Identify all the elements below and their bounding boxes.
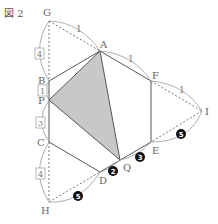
- svg-text:2: 2: [111, 168, 116, 176]
- svg-text:3: 3: [138, 154, 143, 162]
- shaded-triangle-APQ: [49, 51, 120, 160]
- boxed-label-GB: 4: [35, 48, 44, 59]
- boxed-label-BP: 1: [38, 85, 47, 96]
- vertex-label-E: E: [152, 145, 159, 156]
- vertex-label-C: C: [37, 137, 45, 148]
- svg-text:3: 3: [38, 119, 43, 128]
- svg-text:5: 5: [76, 193, 81, 201]
- badge-HD: 5: [73, 191, 83, 201]
- vertex-label-D: D: [99, 175, 107, 186]
- badge-EI: 5: [176, 129, 186, 139]
- length-label-GA: 1: [76, 24, 82, 34]
- vertex-label-F: F: [152, 70, 159, 81]
- vertex-label-Q: Q: [123, 162, 131, 173]
- vertex-label-P: P: [38, 95, 45, 106]
- svg-text:1: 1: [40, 87, 45, 96]
- svg-text:4: 4: [37, 50, 42, 59]
- length-label-AF: 1: [128, 54, 134, 64]
- geometry-figure: 図 2 G A F I E Q D H C P B 1 1 1: [0, 0, 218, 224]
- boxed-label-CH: 4: [36, 168, 45, 179]
- vertex-label-G: G: [43, 7, 51, 18]
- length-label-FI: 1: [179, 85, 185, 95]
- badge-QE: 3: [135, 152, 145, 162]
- vertex-label-A: A: [99, 39, 108, 50]
- svg-text:4: 4: [38, 170, 43, 179]
- badge-DQ: 2: [108, 166, 118, 176]
- boxed-label-PC: 3: [36, 117, 45, 128]
- vertex-label-B: B: [38, 75, 45, 86]
- svg-text:5: 5: [179, 131, 184, 139]
- vertex-label-H: H: [41, 205, 50, 216]
- vertex-label-I: I: [205, 106, 209, 117]
- figure-title: 図 2: [4, 8, 24, 19]
